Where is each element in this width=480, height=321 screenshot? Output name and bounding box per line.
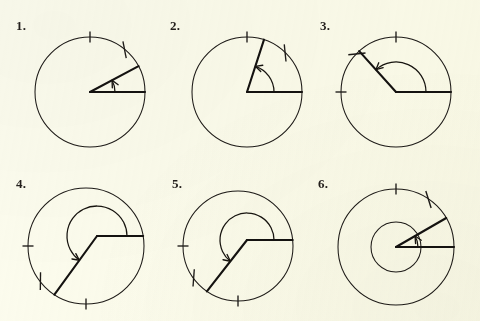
angle-figure-3 <box>327 23 465 161</box>
tick-mark <box>426 191 431 208</box>
angle-sweep-arc <box>220 213 274 261</box>
tick-mark <box>284 44 286 61</box>
terminal-ray <box>207 240 247 291</box>
angle-sweep-arc <box>67 206 127 260</box>
angle-sweep-arc <box>255 66 274 92</box>
terminal-ray <box>54 236 97 295</box>
worksheet-page: 1.2.3.4.5.6. <box>0 0 480 321</box>
outer-circle <box>183 191 293 301</box>
angle-figure-1 <box>21 23 159 161</box>
angle-figure-5 <box>169 177 307 315</box>
arrow-head-icon <box>112 80 118 87</box>
terminal-ray <box>359 51 396 92</box>
angle-figure-2 <box>178 23 316 161</box>
angle-figure-6 <box>324 175 468 319</box>
tick-mark <box>193 269 194 286</box>
angle-figure-4 <box>14 174 158 318</box>
outer-circle <box>28 188 144 304</box>
